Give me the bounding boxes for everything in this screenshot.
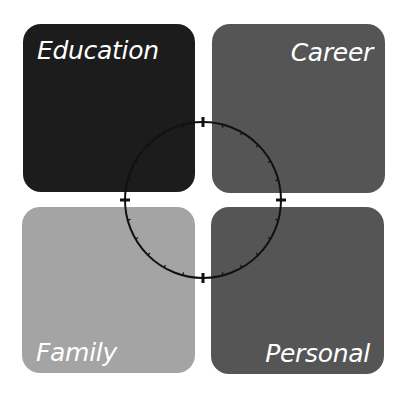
minor-tick [275, 219, 278, 220]
minor-tick [183, 272, 184, 275]
minor-tick [275, 180, 278, 181]
minor-tick [222, 272, 223, 275]
minor-tick [256, 253, 258, 255]
ring-group [120, 117, 286, 283]
tick-ring [0, 0, 407, 394]
minor-tick [222, 125, 223, 128]
minor-tick [128, 180, 131, 181]
minor-tick [256, 145, 258, 147]
minor-tick [148, 145, 150, 147]
minor-tick [148, 253, 150, 255]
minor-tick [128, 219, 131, 220]
minor-tick [183, 125, 184, 128]
